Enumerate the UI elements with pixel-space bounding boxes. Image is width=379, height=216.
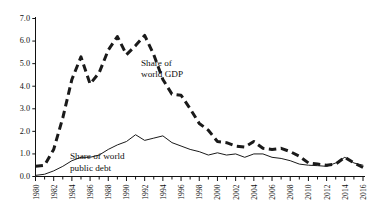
- x-tick-label: 2000: [213, 184, 222, 199]
- x-tick-label: 2012: [323, 184, 332, 199]
- gdp-annotation-line-1: Share of: [141, 58, 173, 68]
- debt-annotation-line-1: Share of world: [70, 151, 125, 161]
- x-tick-label: 2006: [268, 184, 277, 199]
- x-tick-label: 1984: [68, 184, 77, 199]
- gdp-annotation: Share ofworld GDP: [141, 58, 183, 80]
- debt-annotation-line-2: public debt: [70, 163, 112, 173]
- x-tick-label: 2002: [232, 184, 241, 199]
- y-tick-label: 5.0: [20, 59, 30, 68]
- y-tick-label: 0.0: [20, 172, 30, 181]
- y-tick-label: 6.0: [20, 36, 30, 45]
- annotation-layer: Share ofworld GDPShare of worldpublic de…: [70, 58, 183, 173]
- y-tick-label: 2.0: [20, 127, 30, 136]
- x-tick-label: 2010: [304, 184, 313, 199]
- x-tick-label: 1980: [32, 184, 41, 199]
- x-tick-label: 1992: [141, 184, 150, 199]
- x-tick-label: 1988: [104, 184, 113, 199]
- gdp-annotation-line-2: world GDP: [141, 69, 183, 79]
- series-line-gdp: [36, 35, 364, 167]
- x-tick-label: 1986: [86, 184, 95, 199]
- x-tick-label: 1998: [195, 184, 204, 199]
- line-chart: 0.01.02.03.04.05.06.07.0 198019821984198…: [0, 0, 379, 216]
- chart-container: 0.01.02.03.04.05.06.07.0 198019821984198…: [0, 0, 379, 216]
- x-axis: 1980198219841986198819901992199419961998…: [32, 177, 369, 200]
- x-tick-label: 1996: [177, 184, 186, 199]
- x-tick-label: 1982: [50, 184, 59, 199]
- x-tick-label: 2008: [286, 184, 295, 199]
- x-tick-label: 2016: [359, 184, 368, 199]
- y-tick-label: 3.0: [20, 104, 30, 113]
- y-tick-label: 4.0: [20, 82, 30, 91]
- y-axis: 0.01.02.03.04.05.06.07.0: [20, 14, 36, 181]
- debt-annotation: Share of worldpublic debt: [70, 151, 125, 173]
- y-tick-label: 1.0: [20, 149, 30, 158]
- y-tick-label: 7.0: [20, 14, 30, 23]
- x-tick-label: 1994: [159, 184, 168, 199]
- x-tick-label: 1990: [122, 184, 131, 199]
- x-tick-label: 2014: [341, 184, 350, 199]
- x-tick-label: 2004: [250, 184, 259, 199]
